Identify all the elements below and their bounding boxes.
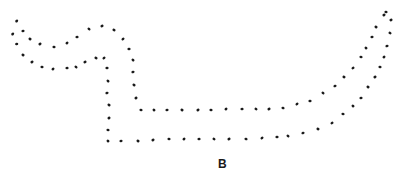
contour-dot [21, 29, 25, 32]
contour-dot [30, 60, 34, 64]
contour-dot [131, 70, 135, 73]
contour-dot [374, 25, 378, 29]
contour-dot [94, 56, 98, 59]
contour-dot [102, 56, 106, 60]
contour-dot [51, 67, 55, 71]
contour-dot [28, 37, 32, 41]
contour-dot [105, 91, 109, 94]
contour-dot [351, 104, 355, 108]
contour-dot [364, 46, 368, 50]
contour-dot [382, 55, 386, 59]
contour-dot [152, 108, 156, 112]
contour-dot [240, 108, 243, 111]
contour-dot [134, 96, 138, 100]
contour-dot [139, 109, 142, 112]
contour-dot [38, 42, 42, 46]
contour-dot [15, 19, 19, 23]
contour-dot [52, 45, 56, 48]
contour-dot [308, 100, 311, 103]
contour-dot [227, 137, 231, 141]
contour-dot [105, 67, 108, 70]
contour-dot [267, 107, 271, 111]
contour-dot [212, 137, 216, 141]
contour-dot [15, 42, 19, 45]
contour-dot [366, 85, 370, 89]
contour-dot [151, 138, 155, 142]
contour-dot [275, 136, 278, 139]
contour-dot [351, 66, 355, 70]
contour-dot [359, 96, 363, 99]
contour-dot [121, 37, 125, 41]
contour-dot [112, 28, 116, 31]
contour-dot [281, 106, 285, 109]
contour-dot [11, 32, 15, 36]
contour-dot [295, 102, 299, 106]
contour-dot [286, 134, 290, 138]
contour-dot [119, 139, 123, 142]
contour-dot [107, 103, 111, 107]
contour-dot [373, 75, 377, 79]
contour-dot [316, 127, 320, 131]
contour-dot [385, 45, 388, 48]
contour-dot [132, 83, 136, 87]
contour-dot [65, 41, 69, 45]
contour-dot [21, 53, 25, 57]
dotted-outline-figure [0, 0, 401, 182]
contour-dot [342, 75, 346, 79]
contour-dot [167, 137, 171, 140]
contours-group [11, 10, 393, 143]
contour-dot [330, 121, 334, 125]
contour-dot [378, 65, 382, 68]
contour-dot [197, 138, 200, 141]
contour-dot [254, 107, 258, 111]
figure-label: B [218, 157, 227, 171]
contour-dot [127, 48, 130, 51]
contour-dot [106, 79, 110, 83]
contour-dot [321, 91, 325, 95]
contour-dot [182, 137, 186, 141]
contour-dot [359, 56, 362, 59]
contour-dot [389, 18, 393, 22]
contour-dot [301, 131, 305, 134]
contour-dot [165, 108, 169, 111]
contour-dot [74, 65, 78, 69]
contour-dot [209, 108, 213, 111]
contour-dot [180, 108, 184, 112]
contour-dot [131, 58, 135, 62]
contour-dot [87, 27, 91, 31]
contour-dot [384, 10, 388, 13]
contour-dot [107, 116, 111, 120]
contour-dot [224, 107, 228, 111]
contour-dot [341, 113, 344, 116]
contour-dot [106, 139, 110, 143]
lower-contour [11, 18, 393, 143]
contour-dot [100, 24, 104, 28]
contour-dot [196, 108, 200, 112]
contour-dot [244, 137, 248, 140]
contour-dot [75, 36, 78, 39]
contour-dot [106, 129, 109, 132]
contour-dot [136, 139, 140, 143]
contour-dot [260, 136, 264, 140]
contour-dot [65, 67, 68, 70]
contour-dot [370, 35, 374, 38]
upper-contour [15, 10, 388, 112]
contour-dot [382, 13, 386, 17]
contour-dot [333, 84, 337, 87]
contour-dot [388, 31, 392, 35]
contour-dot [83, 60, 87, 64]
contour-dot [40, 65, 44, 68]
